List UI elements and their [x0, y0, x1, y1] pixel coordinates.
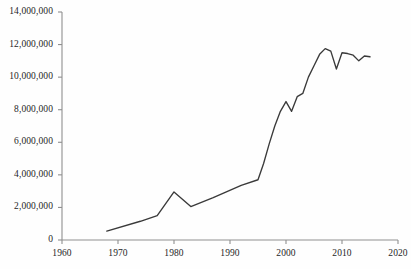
y-tick-label: 6,000,000	[0, 137, 53, 147]
x-tick-label: 2010	[317, 249, 367, 259]
axis-lines	[62, 12, 398, 240]
series-line	[107, 49, 370, 231]
x-tick-label: 1990	[205, 249, 255, 259]
y-tick-label: 14,000,000	[0, 7, 53, 17]
x-tick-label: 1960	[37, 249, 87, 259]
y-tick-label: 2,000,000	[0, 202, 53, 212]
line-chart-figure: 02,000,0004,000,0006,000,0008,000,00010,…	[0, 0, 411, 269]
x-tick-label: 2020	[373, 249, 411, 259]
y-tick-label: 12,000,000	[0, 40, 53, 50]
x-tick-label: 2000	[261, 249, 311, 259]
y-tick-label: 4,000,000	[0, 170, 53, 180]
y-tick-label: 8,000,000	[0, 105, 53, 115]
x-tick-label: 1980	[149, 249, 199, 259]
y-tick-label: 10,000,000	[0, 72, 53, 82]
y-tick-label: 0	[0, 235, 53, 245]
data-series-group	[107, 49, 370, 231]
x-tick-label: 1970	[93, 249, 143, 259]
x-axis-ticks	[62, 240, 398, 244]
chart-plot-area	[0, 0, 411, 269]
y-axis-ticks	[58, 12, 62, 240]
